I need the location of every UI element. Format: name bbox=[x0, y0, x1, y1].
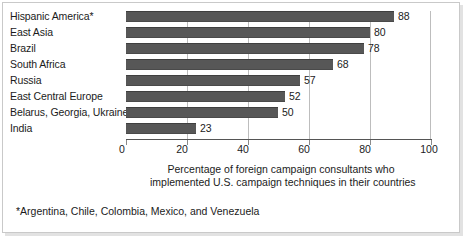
bar-india bbox=[126, 123, 196, 134]
bar-value-hispanic-america: 88 bbox=[398, 11, 410, 22]
bar-value-russia: 57 bbox=[304, 75, 316, 86]
chart-figure: Hispanic America* East Asia Brazil South… bbox=[0, 0, 468, 241]
category-label-belarus-georgia-ukraine: Belarus, Georgia, Ukraine bbox=[10, 107, 122, 118]
bar-chart: Hispanic America* East Asia Brazil South… bbox=[0, 0, 468, 241]
gridline-80 bbox=[370, 11, 371, 139]
category-label-east-central-europe: East Central Europe bbox=[10, 91, 122, 102]
x-tick-label-40: 40 bbox=[237, 143, 249, 155]
bar-value-india: 23 bbox=[200, 123, 212, 134]
category-label-brazil: Brazil bbox=[10, 43, 122, 54]
x-tick-label-20: 20 bbox=[176, 143, 188, 155]
category-label-south-africa: South Africa bbox=[10, 59, 122, 70]
category-label-east-asia: East Asia bbox=[10, 27, 122, 38]
bar-south-africa bbox=[126, 59, 333, 70]
chart-caption: Percentage of foreign campaign consultan… bbox=[150, 163, 412, 188]
bar-value-brazil: 78 bbox=[368, 43, 380, 54]
x-axis-line bbox=[126, 139, 432, 140]
gridline-100 bbox=[430, 11, 431, 139]
x-tick-0 bbox=[126, 140, 127, 145]
caption-line-1: Percentage of foreign campaign consultan… bbox=[150, 163, 412, 176]
plot-area: 88 80 78 68 57 52 50 23 bbox=[126, 11, 431, 139]
chart-footnote: *Argentina, Chile, Colombia, Mexico, and… bbox=[16, 205, 259, 217]
x-tick-label-80: 80 bbox=[359, 143, 371, 155]
x-tick-label-60: 60 bbox=[298, 143, 310, 155]
bar-belarus-georgia-ukraine bbox=[126, 107, 278, 118]
caption-line-2: implemented U.S. campaign techniques in … bbox=[150, 176, 412, 189]
bar-value-east-central-europe: 52 bbox=[289, 91, 301, 102]
bar-russia bbox=[126, 75, 300, 86]
x-tick-label-0: 0 bbox=[119, 143, 125, 155]
bar-value-belarus-georgia-ukraine: 50 bbox=[282, 107, 294, 118]
category-label-russia: Russia bbox=[10, 75, 122, 86]
bar-hispanic-america bbox=[126, 11, 394, 22]
bar-east-central-europe bbox=[126, 91, 285, 102]
category-label-hispanic-america: Hispanic America* bbox=[10, 11, 122, 22]
category-label-india: India bbox=[10, 123, 122, 134]
bar-value-south-africa: 68 bbox=[337, 59, 349, 70]
category-axis-labels: Hispanic America* East Asia Brazil South… bbox=[10, 11, 122, 139]
bar-east-asia bbox=[126, 27, 370, 38]
bar-brazil bbox=[126, 43, 364, 54]
bar-value-east-asia: 80 bbox=[374, 27, 386, 38]
x-tick-label-100: 100 bbox=[420, 143, 438, 155]
